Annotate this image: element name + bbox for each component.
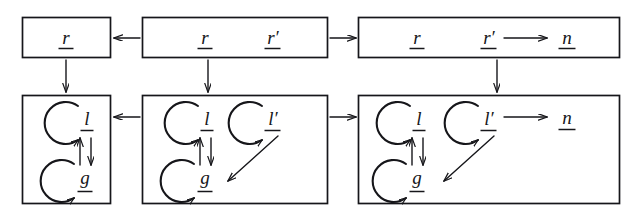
bottom-middle-content: l l′ g	[161, 102, 281, 202]
top-middle-content: r r′	[198, 27, 281, 49]
diagram-canvas: r r r′ r r′ n l g l	[0, 0, 642, 222]
self-loop-g-bottom-middle	[161, 160, 194, 202]
self-loop-lprime-bottom-middle	[229, 102, 262, 144]
bottom-right-content: l l′ n g	[373, 102, 576, 202]
label-g-bottom-right: g	[412, 167, 422, 188]
label-r-top-middle: r	[201, 27, 209, 48]
self-loop-lprime-bottom-right	[445, 102, 478, 144]
top-middle-box	[143, 18, 328, 58]
label-g-bottom-left: g	[80, 167, 90, 188]
self-loop-l-bottom-middle	[165, 102, 198, 144]
top-right-content: r r′ n	[410, 27, 576, 49]
top-left-content: r	[59, 27, 74, 49]
label-r-top-right: r	[413, 27, 421, 48]
label-l-bottom-middle: l	[204, 108, 209, 129]
self-loop-g-bottom-right	[373, 160, 406, 202]
bottom-left-box	[23, 96, 111, 204]
label-rprime-top-right: r′	[483, 27, 495, 48]
self-loop-l-bottom-right	[377, 102, 410, 144]
self-loop-g-bottom-left	[41, 160, 74, 202]
label-g-bottom-middle: g	[200, 167, 210, 188]
label-l-bottom-left: l	[84, 108, 89, 129]
self-loop-l-bottom-left	[45, 102, 78, 144]
bottom-left-content: l g	[41, 102, 94, 202]
label-rprime-top-middle: r′	[267, 27, 279, 48]
label-lprime-bottom-right: l′	[484, 108, 494, 129]
label-r-top-left: r	[62, 27, 70, 48]
bottom-middle-box	[143, 96, 328, 204]
label-n-bottom-right: n	[562, 107, 572, 128]
label-lprime-bottom-middle: l′	[268, 108, 278, 129]
label-l-bottom-right: l	[416, 108, 421, 129]
label-n-top-right: n	[562, 27, 572, 48]
